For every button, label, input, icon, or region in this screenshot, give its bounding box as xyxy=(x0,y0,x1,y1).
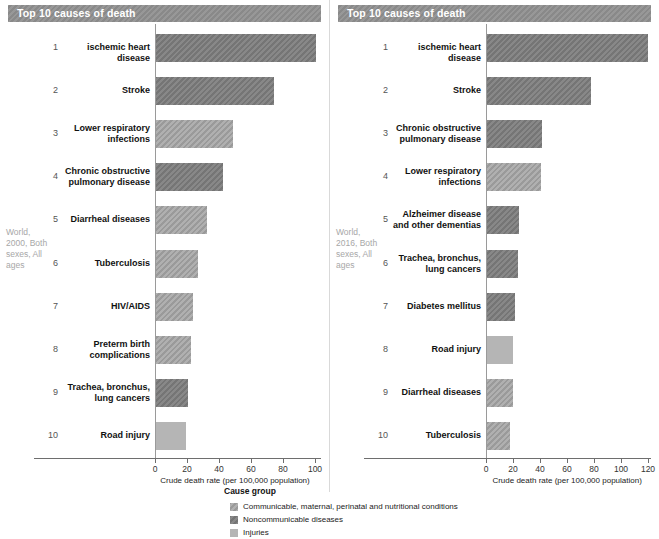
rank-number: 9 xyxy=(44,387,58,397)
cause-label: HIV/AIDS xyxy=(62,301,150,312)
cause-label: Tuberculosis xyxy=(62,258,150,269)
bar-ncd[interactable] xyxy=(487,77,591,105)
legend-item[interactable]: Communicable, maternal, perinatal and nu… xyxy=(224,500,554,513)
cause-label: Chronic obstructive pulmonary disease xyxy=(62,166,150,188)
axis-baseline xyxy=(34,458,321,459)
axis-tick-label: 80 xyxy=(271,464,295,474)
chart-panel-left: Top 10 causes of death World, 2000, Both… xyxy=(0,0,329,492)
bar-cmnn[interactable] xyxy=(156,293,193,321)
bar-cmnn[interactable] xyxy=(156,120,233,148)
bar-ncd[interactable] xyxy=(487,206,519,234)
axis-tick xyxy=(648,459,649,463)
cause-label: Trachea, bronchus, lung cancers xyxy=(62,382,150,404)
bar-cmnn[interactable] xyxy=(156,250,198,278)
cause-label: Road injury xyxy=(62,430,150,441)
axis-tick-label: 80 xyxy=(582,464,606,474)
rank-number: 1 xyxy=(374,42,388,52)
rank-number: 5 xyxy=(44,214,58,224)
axis-tick xyxy=(155,459,156,463)
axis-tick-label: 0 xyxy=(474,464,498,474)
legend-items: Communicable, maternal, perinatal and nu… xyxy=(224,500,554,539)
cause-label: Tuberculosis xyxy=(392,430,481,441)
bar-ncd[interactable] xyxy=(156,34,316,62)
axis-baseline xyxy=(364,458,651,459)
axis-tick-label: 40 xyxy=(528,464,552,474)
axis-tick xyxy=(251,459,252,463)
bar-cmnn[interactable] xyxy=(487,379,513,407)
cause-label: Stroke xyxy=(62,85,150,96)
rank-number: 10 xyxy=(374,430,388,440)
plot-area-left: World, 2000, Both sexes, All ages 1ische… xyxy=(0,24,329,492)
value-axis-left xyxy=(155,24,156,458)
cause-label: Road injury xyxy=(392,344,481,355)
cause-label: ischemic heart disease xyxy=(392,42,481,64)
cause-label: Trachea, bronchus, lung cancers xyxy=(392,253,481,275)
bar-cmnn[interactable] xyxy=(156,206,207,234)
panel-title-bar-left: Top 10 causes of death xyxy=(8,5,321,22)
value-axis-right xyxy=(486,24,487,458)
legend-item[interactable]: Injuries xyxy=(224,526,554,539)
plot-area-right: World, 2016, Both sexes, All ages 1ische… xyxy=(330,24,659,492)
bar-cmnn[interactable] xyxy=(156,336,191,364)
rank-number: 7 xyxy=(44,301,58,311)
bar-ncd[interactable] xyxy=(156,163,223,191)
legend-item[interactable]: Noncommunicable diseases xyxy=(224,513,554,526)
rank-number: 9 xyxy=(374,387,388,397)
axis-tick-label: 20 xyxy=(175,464,199,474)
chart-panel-right: Top 10 causes of death World, 2016, Both… xyxy=(330,0,659,492)
axis-tick xyxy=(513,459,514,463)
rank-number: 8 xyxy=(374,344,388,354)
cause-label: Preterm birth complications xyxy=(62,339,150,361)
rank-number: 7 xyxy=(374,301,388,311)
bar-ncd[interactable] xyxy=(487,293,515,321)
axis-tick-label: 20 xyxy=(501,464,525,474)
bar-rows-left: 1ischemic heart disease2Stroke3Lower res… xyxy=(0,24,329,456)
panel-title-left: Top 10 causes of death xyxy=(8,8,136,19)
legend-swatch-ncd xyxy=(230,516,238,524)
bar-ncd[interactable] xyxy=(156,379,188,407)
rank-number: 4 xyxy=(374,171,388,181)
panel-title-right: Top 10 causes of death xyxy=(338,8,466,19)
panel-title-bar-right: Top 10 causes of death xyxy=(338,5,651,22)
rank-number: 8 xyxy=(44,344,58,354)
rank-number: 2 xyxy=(44,85,58,95)
axis-tick-label: 100 xyxy=(609,464,633,474)
bar-ncd[interactable] xyxy=(487,34,648,62)
axis-tick xyxy=(621,459,622,463)
cause-label: Diarrheal diseases xyxy=(392,387,481,398)
axis-tick xyxy=(187,459,188,463)
axis-tick xyxy=(486,459,487,463)
bar-inj[interactable] xyxy=(156,422,186,450)
x-axis-title: Crude death rate (per 100,000 population… xyxy=(417,476,659,485)
axis-tick xyxy=(283,459,284,463)
axis-tick-label: 40 xyxy=(207,464,231,474)
legend-label: Noncommunicable diseases xyxy=(243,514,343,525)
cause-label: Stroke xyxy=(392,85,481,96)
bar-cmnn[interactable] xyxy=(487,163,541,191)
cause-label: Diarrheal diseases xyxy=(62,214,150,225)
bar-ncd[interactable] xyxy=(156,77,274,105)
axis-tick-label: 120 xyxy=(636,464,659,474)
rank-number: 6 xyxy=(374,258,388,268)
axis-tick xyxy=(594,459,595,463)
bar-rows-right: 1ischemic heart disease2Stroke3Chronic o… xyxy=(330,24,659,456)
axis-tick xyxy=(567,459,568,463)
cause-label: Lower respiratory infections xyxy=(62,123,150,145)
rank-number: 10 xyxy=(44,430,58,440)
legend-label: Injuries xyxy=(243,527,269,538)
bar-ncd[interactable] xyxy=(487,250,518,278)
axis-tick xyxy=(540,459,541,463)
rank-number: 6 xyxy=(44,258,58,268)
rank-number: 4 xyxy=(44,171,58,181)
bar-ncd[interactable] xyxy=(487,120,542,148)
legend-swatch-inj xyxy=(230,529,238,537)
bar-inj[interactable] xyxy=(487,336,513,364)
rank-number: 3 xyxy=(374,128,388,138)
legend-label: Communicable, maternal, perinatal and nu… xyxy=(243,501,458,512)
cause-label: Alzheimer disease and other dementias xyxy=(392,209,481,231)
cause-label: Lower respiratory infections xyxy=(392,166,481,188)
legend: Cause group Communicable, maternal, peri… xyxy=(224,486,554,539)
legend-title: Cause group xyxy=(224,486,554,496)
bar-cmnn[interactable] xyxy=(487,422,510,450)
